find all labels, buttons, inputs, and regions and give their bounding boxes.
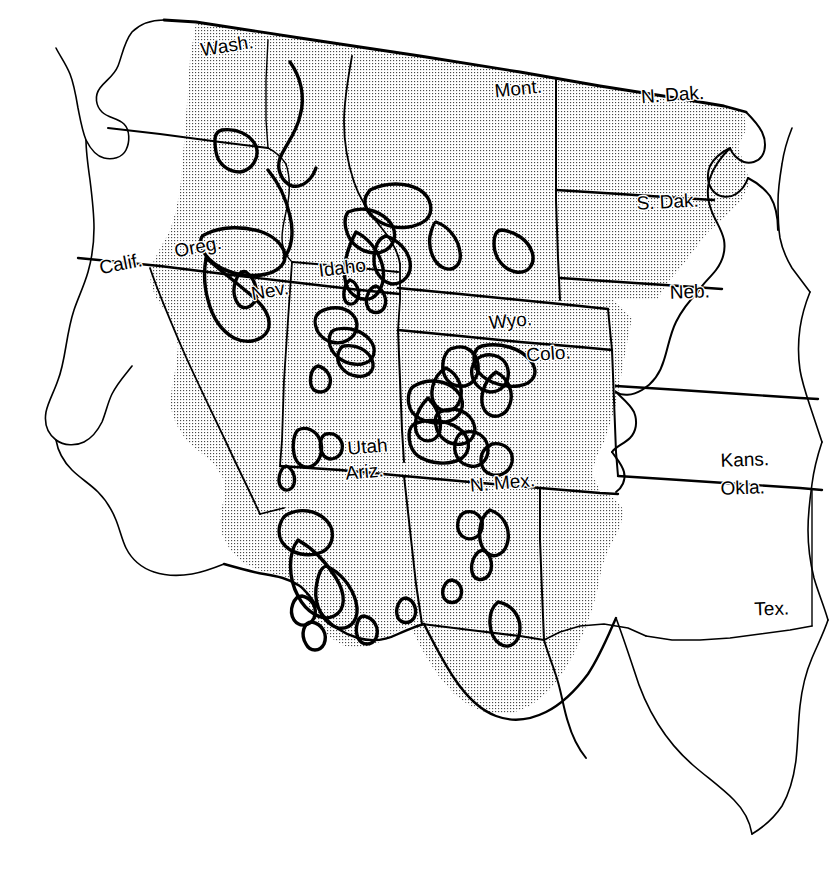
- state-label-kans: Kans.: [720, 448, 769, 471]
- state-label-utah: Utah: [347, 434, 389, 458]
- western-us-map: Wash.Oreg.Calif.IdahoNev.Mont.N. Dak.S. …: [0, 0, 834, 870]
- state-label-wyo: Wyo.: [488, 308, 533, 333]
- state-label-okla: Okla.: [720, 476, 765, 499]
- state-label-colo: Colo.: [526, 341, 572, 365]
- state-label-ndak: N. Dak.: [640, 82, 705, 107]
- state-label-tex: Tex.: [754, 597, 790, 619]
- state-label-sdak: S. Dak.: [636, 189, 699, 213]
- state-label-neb: Neb.: [669, 280, 710, 302]
- state-label-ariz: Ariz.: [345, 459, 385, 483]
- map-container: Wash.Oreg.Calif.IdahoNev.Mont.N. Dak.S. …: [0, 0, 834, 870]
